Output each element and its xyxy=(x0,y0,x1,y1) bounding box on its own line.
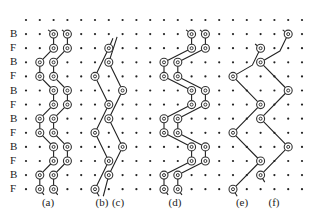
loop-circle-icon xyxy=(201,101,209,109)
panel-label-f: (f) xyxy=(269,197,280,208)
grid-dot xyxy=(122,75,124,77)
loop-circle-icon xyxy=(91,129,99,137)
yarn-path-a xyxy=(54,30,68,195)
grid-dot xyxy=(135,89,137,91)
grid-dot xyxy=(273,47,275,49)
grid-dot xyxy=(273,19,275,21)
grid-dot xyxy=(149,61,151,63)
loop-circle-icon xyxy=(160,58,168,66)
grid-dot xyxy=(218,75,220,77)
loop-circle-icon xyxy=(174,129,182,137)
grid-dot xyxy=(232,104,234,106)
grid-dot xyxy=(66,19,68,21)
grid-dot xyxy=(246,132,248,134)
grid-dot xyxy=(232,19,234,21)
loop-circle-icon xyxy=(63,157,71,165)
loop-circle-icon xyxy=(119,87,127,95)
grid-dot xyxy=(149,19,151,21)
grid-dot xyxy=(66,132,68,134)
grid-dot xyxy=(25,33,27,35)
loop-circle-icon xyxy=(284,143,292,151)
grid-dot xyxy=(39,160,41,162)
grid-dot xyxy=(246,47,248,49)
loop-circle-icon xyxy=(160,115,168,123)
grid-dot xyxy=(149,188,151,190)
panel-label-c: (c) xyxy=(112,197,124,208)
grid-dot xyxy=(39,146,41,148)
row-label-b: B xyxy=(10,85,17,96)
row-label-f: F xyxy=(10,155,16,166)
dot-grid-canvas xyxy=(0,0,317,223)
grid-dot xyxy=(108,132,110,134)
grid-dot xyxy=(94,61,96,63)
grid-dot xyxy=(246,19,248,21)
loop-circle-icon xyxy=(160,72,168,80)
grid-dot xyxy=(66,118,68,120)
grid-dot xyxy=(94,174,96,176)
grid-dot xyxy=(149,146,151,148)
grid-dot xyxy=(94,19,96,21)
panel-label-b: (b) xyxy=(96,197,109,208)
grid-dot xyxy=(177,160,179,162)
grid-dot xyxy=(122,104,124,106)
grid-dot xyxy=(218,33,220,35)
grid-dot xyxy=(246,33,248,35)
grid-dot xyxy=(122,132,124,134)
grid-dot xyxy=(80,47,82,49)
row-label-b: B xyxy=(10,141,17,152)
grid-dot xyxy=(108,19,110,21)
grid-dot xyxy=(301,47,303,49)
loop-circle-icon xyxy=(50,44,58,52)
grid-dot xyxy=(218,146,220,148)
grid-dot xyxy=(191,188,193,190)
grid-dot xyxy=(287,132,289,134)
loop-circle-icon xyxy=(50,87,58,95)
loop-circle-icon xyxy=(36,72,44,80)
grid-dot xyxy=(122,47,124,49)
loop-circle-icon xyxy=(188,101,196,109)
loop-circle-icon xyxy=(229,129,237,137)
loop-circle-icon xyxy=(188,87,196,95)
loop-circle-icon xyxy=(257,157,265,165)
grid-dot xyxy=(301,160,303,162)
row-label-b: B xyxy=(10,169,17,180)
grid-dot xyxy=(204,19,206,21)
grid-dot xyxy=(191,132,193,134)
grid-dot xyxy=(80,146,82,148)
loop-circle-icon xyxy=(119,143,127,151)
grid-dot xyxy=(218,132,220,134)
grid-dot xyxy=(80,61,82,63)
grid-dot xyxy=(204,61,206,63)
grid-dot xyxy=(177,146,179,148)
grid-dot xyxy=(287,188,289,190)
grid-dot xyxy=(80,174,82,176)
grid-dot xyxy=(218,174,220,176)
grid-dot xyxy=(39,19,41,21)
grid-dot xyxy=(94,47,96,49)
grid-dot xyxy=(149,174,151,176)
loop-circle-icon xyxy=(174,58,182,66)
loop-circle-icon xyxy=(36,115,44,123)
grid-dot xyxy=(80,33,82,35)
grid-dot xyxy=(135,47,137,49)
grid-dot xyxy=(25,19,27,21)
grid-dot xyxy=(301,188,303,190)
grid-dot xyxy=(66,188,68,190)
grid-dot xyxy=(135,104,137,106)
grid-dot xyxy=(25,104,27,106)
loop-circle-icon xyxy=(257,58,265,66)
grid-dot xyxy=(232,33,234,35)
grid-dot xyxy=(232,89,234,91)
loop-circle-icon xyxy=(257,44,265,52)
grid-dot xyxy=(163,160,165,162)
grid-dot xyxy=(163,47,165,49)
grid-dot xyxy=(232,61,234,63)
row-label-f: F xyxy=(10,99,16,110)
loop-circle-icon xyxy=(160,129,168,137)
knit-stitch-diagram: BFBFBFBFBFBF (a)(b)(c)(d)(e)(f) xyxy=(0,0,317,223)
grid-dot xyxy=(94,118,96,120)
grid-dot xyxy=(80,188,82,190)
grid-dot xyxy=(287,61,289,63)
grid-dot xyxy=(108,75,110,77)
grid-dot xyxy=(301,89,303,91)
